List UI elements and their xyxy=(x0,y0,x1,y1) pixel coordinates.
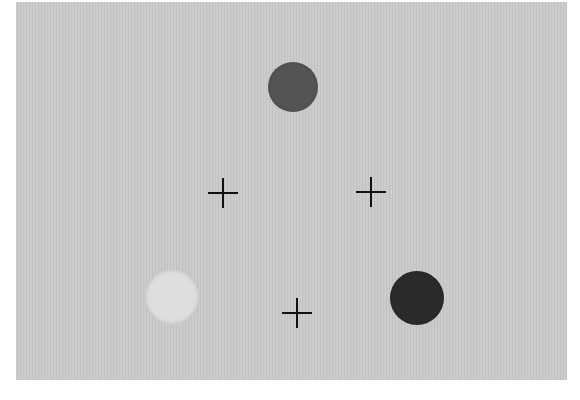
light-grey-disc xyxy=(145,270,199,324)
dark-grey-disc xyxy=(268,62,318,112)
fixation-cross-left xyxy=(208,178,238,208)
fixation-cross-bottom xyxy=(282,298,312,328)
fixation-cross-right xyxy=(356,177,386,207)
black-disc xyxy=(390,271,444,325)
